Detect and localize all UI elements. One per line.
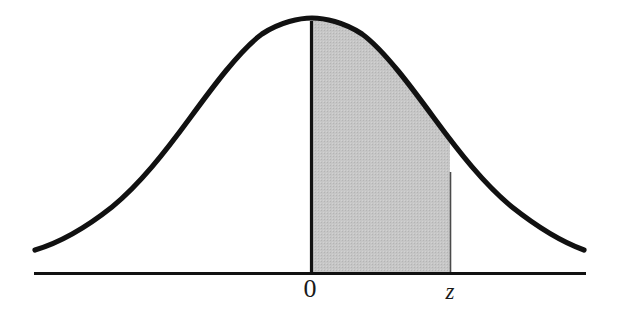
shaded-area-0-to-z bbox=[311, 18, 450, 273]
bell-curve-path bbox=[35, 18, 584, 250]
axis-label-z: z bbox=[430, 280, 470, 303]
axis-label-zero: 0 bbox=[290, 276, 330, 302]
normal-curve-plot bbox=[0, 0, 622, 310]
normal-distribution-figure: 0 z bbox=[0, 0, 622, 310]
